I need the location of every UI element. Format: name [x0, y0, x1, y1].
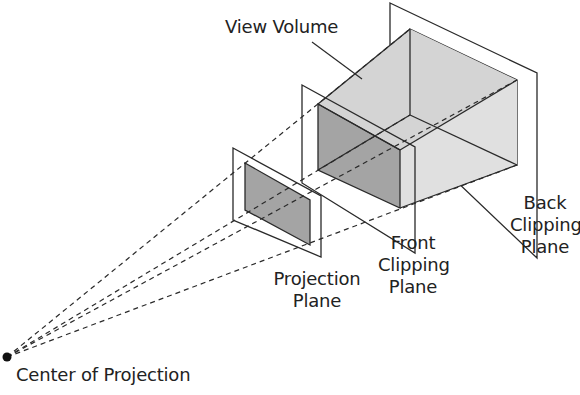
front-clipping-plane-label-line3: Plane [378, 276, 448, 298]
front-clipping-plane-label-line2: Clipping [378, 254, 448, 276]
projection-plane-label-line1: Projection [272, 268, 362, 290]
view-volume-pointer [312, 42, 362, 79]
back-clipping-plane-label-line3: Plane [510, 236, 580, 258]
back-clipping-plane-label-line1: Back [510, 192, 580, 214]
back-clipping-plane-label: Back Clipping Plane [510, 192, 580, 258]
center-of-projection-point [3, 353, 12, 362]
projection-plane-label-line2: Plane [272, 290, 362, 312]
view-volume-label: View Volume [225, 16, 338, 38]
view-volume-diagram [0, 0, 580, 395]
front-clipping-plane-label: Front Clipping Plane [378, 232, 448, 298]
center-of-projection-label: Center of Projection [16, 364, 190, 386]
front-clipping-plane-label-line1: Front [378, 232, 448, 254]
projection-plane-label: Projection Plane [272, 268, 362, 312]
back-clipping-plane-label-line2: Clipping [510, 214, 580, 236]
